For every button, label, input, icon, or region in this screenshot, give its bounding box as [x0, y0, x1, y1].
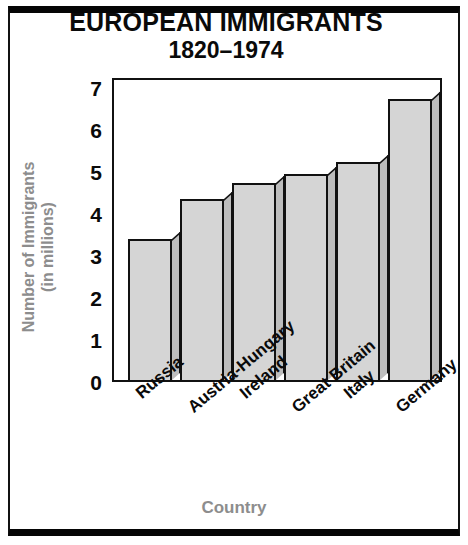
bar-great-britain — [284, 165, 337, 380]
chart-figure: EUROPEAN IMMIGRANTS 1820–1974 Number of … — [0, 0, 468, 545]
y-tick-label-3: 3 — [90, 246, 102, 267]
bar-side-face — [432, 91, 441, 380]
y-tick-label-7: 7 — [90, 78, 102, 99]
y-tick-label-5: 5 — [90, 162, 102, 183]
y-axis-title-line1: Number of Immigrants — [19, 147, 38, 347]
y-tick-label-0: 0 — [90, 372, 102, 393]
y-axis-title: Number of Immigrants (in millions) — [19, 147, 57, 347]
bar-front-face — [388, 99, 432, 380]
y-tick-label-2: 2 — [90, 288, 102, 309]
y-tick-label-4: 4 — [90, 204, 102, 225]
y-tick-label-6: 6 — [90, 120, 102, 141]
bar-front-face — [284, 174, 328, 380]
x-axis-title: Country — [0, 498, 468, 518]
bar-austria-hungary — [180, 190, 233, 380]
y-axis: Number of Immigrants (in millions) 01234… — [0, 0, 112, 545]
bar-germany — [388, 90, 441, 380]
y-tick-label-1: 1 — [90, 330, 102, 351]
bar-front-face — [180, 199, 224, 380]
y-axis-title-line2: (in millions) — [38, 147, 57, 347]
